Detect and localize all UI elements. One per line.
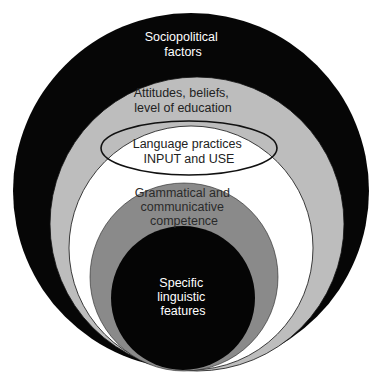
practices-label: Language practices INPUT and USE	[133, 137, 246, 166]
attitudes-label: Attitudes, beliefs, level of education	[134, 86, 233, 115]
nested-circles-diagram: Sociopolitical factors Attitudes, belief…	[0, 0, 377, 382]
features-label: Specific linguistic features	[157, 276, 208, 318]
